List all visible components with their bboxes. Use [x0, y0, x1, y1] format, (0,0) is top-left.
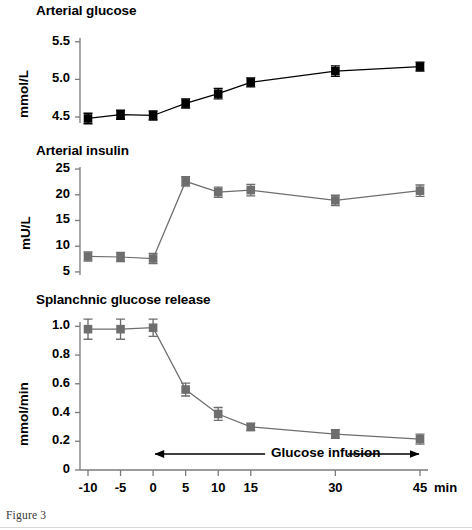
plot-area-arterial-glucose: [0, 0, 472, 140]
y-tick-label: 5: [22, 263, 70, 278]
y-tick-label: 15: [22, 211, 70, 226]
data-point-marker: [149, 111, 158, 120]
data-point-marker: [116, 325, 125, 334]
chart-panel-splanchnic-glucose-release: Splanchnic glucose release mmol/min 00.2…: [0, 290, 472, 490]
data-point-marker: [214, 188, 223, 197]
data-point-marker: [331, 67, 340, 76]
data-point-marker: [149, 254, 158, 263]
x-axis-unit-label: min: [434, 480, 457, 495]
y-tick-label: 0.2: [22, 432, 70, 447]
chart-panel-arterial-glucose: Arterial glucose mmol/L 4.55.05.5: [0, 0, 472, 140]
data-point-marker: [149, 323, 158, 332]
data-point-marker: [84, 325, 93, 334]
y-tick-label: 10: [22, 237, 70, 252]
shared-x-axis: -10-50510153045min: [0, 462, 472, 510]
data-point-marker: [214, 89, 223, 98]
y-tick-label: 0.8: [22, 346, 70, 361]
caption-divider: [0, 527, 472, 528]
y-tick-label: 20: [22, 186, 70, 201]
chart-panel-arterial-insulin: Arterial insulin mU/L 510152025: [0, 140, 472, 290]
glucose-infusion-annotation-label: Glucose infusion: [271, 445, 381, 460]
figure-3: Arterial glucose mmol/L 4.55.05.5 Arteri…: [0, 0, 472, 530]
panel-title-arterial-glucose: Arterial glucose: [36, 3, 136, 18]
y-tick-label: 5.5: [22, 33, 70, 48]
data-point-marker: [416, 186, 425, 195]
data-point-marker: [181, 177, 190, 186]
x-tick-label: 15: [221, 480, 281, 495]
plot-area-arterial-insulin: [0, 140, 472, 290]
y-tick-label: 4.5: [22, 108, 70, 123]
data-point-marker: [181, 385, 190, 394]
y-tick-label: 0.6: [22, 375, 70, 390]
data-point-marker: [246, 78, 255, 87]
data-line: [88, 67, 420, 119]
data-point-marker: [246, 186, 255, 195]
data-point-marker: [214, 410, 223, 419]
data-point-marker: [84, 252, 93, 261]
data-point-marker: [246, 423, 255, 432]
data-point-marker: [116, 253, 125, 262]
data-point-marker: [116, 110, 125, 119]
y-tick-label: 25: [22, 160, 70, 175]
figure-caption: Figure 3: [6, 509, 46, 521]
plot-area-splanchnic-glucose-release: [0, 290, 472, 490]
y-tick-label: 5.0: [22, 70, 70, 85]
data-line: [88, 328, 420, 439]
panel-title-splanchnic-glucose-release: Splanchnic glucose release: [36, 292, 210, 307]
data-point-marker: [181, 99, 190, 108]
y-tick-label: 1.0: [22, 317, 70, 332]
data-point-marker: [331, 430, 340, 439]
data-point-marker: [331, 196, 340, 205]
data-point-marker: [416, 435, 425, 444]
data-point-marker: [84, 114, 93, 123]
data-point-marker: [416, 62, 425, 71]
y-tick-label: 0.4: [22, 404, 70, 419]
panel-title-arterial-insulin: Arterial insulin: [36, 143, 129, 158]
x-tick-label: 30: [305, 480, 365, 495]
